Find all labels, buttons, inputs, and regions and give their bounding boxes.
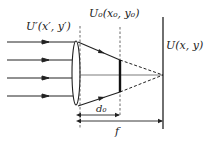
ray-arrow-1 <box>42 40 49 44</box>
ray-arrow-4 <box>42 94 49 98</box>
ray-arrow-3 <box>42 76 49 80</box>
lens-diagram: U′(x′, y′) U₀(x₀, y₀) U(x, y) d₀ f <box>0 0 206 144</box>
upper-ray-arrow <box>98 49 105 54</box>
d0-label: d₀ <box>96 103 106 114</box>
converging-rays <box>78 42 120 106</box>
object-plane-label: U₀(x₀, y₀) <box>89 7 140 20</box>
ray-arrow-2 <box>42 58 49 62</box>
input-field-label: U′(x′, y′) <box>26 20 71 33</box>
incident-rays <box>7 40 76 98</box>
lens <box>72 41 80 105</box>
f-label: f <box>114 125 121 138</box>
cone-extension-dashed <box>120 60 163 92</box>
lower-ray-arrow <box>98 97 105 102</box>
output-field-label: U(x, y) <box>166 39 203 52</box>
